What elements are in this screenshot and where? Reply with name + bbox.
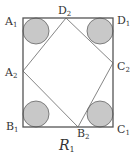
label-c1: C1 bbox=[117, 123, 130, 137]
label-d2: D2 bbox=[58, 4, 71, 18]
circle-b1 bbox=[23, 101, 49, 127]
label-c2: C2 bbox=[117, 60, 130, 74]
circle-d1 bbox=[87, 18, 113, 44]
label-b1: B1 bbox=[6, 120, 19, 134]
label-a2: A2 bbox=[4, 66, 17, 80]
geometry-diagram: A1 D2 D1 C2 A2 B1 B2 C1 R1 bbox=[0, 0, 137, 154]
label-b2: B2 bbox=[77, 127, 90, 141]
figure-title: R1 bbox=[58, 137, 75, 154]
circle-c1 bbox=[87, 101, 113, 127]
label-d1: D1 bbox=[117, 14, 130, 28]
circle-a1 bbox=[23, 18, 49, 44]
label-a1: A1 bbox=[4, 15, 17, 29]
